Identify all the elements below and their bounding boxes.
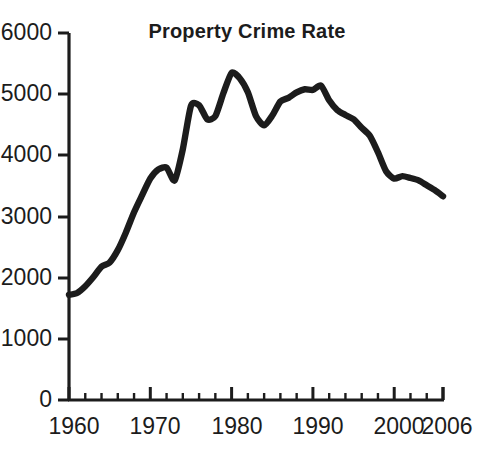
- y-tick-label-2000: 2000: [1, 264, 52, 290]
- x-tick-label-2006: 2006: [421, 413, 472, 439]
- x-tick-label-1980: 1980: [211, 413, 262, 439]
- y-tick-label-3000: 3000: [1, 203, 52, 229]
- y-tick-label-0: 0: [39, 386, 52, 412]
- y-axis-labels: 6000 5000 4000 3000 2000 1000 0: [1, 19, 52, 412]
- y-tick-label-6000: 6000: [1, 19, 52, 45]
- x-tick-label-2000: 2000: [373, 413, 424, 439]
- x-tick-marks: [69, 387, 443, 400]
- x-tick-label-1970: 1970: [129, 413, 180, 439]
- y-tick-label-1000: 1000: [1, 325, 52, 351]
- chart-title: Property Crime Rate: [148, 20, 345, 42]
- x-axis-labels: 1960 1970 1980 1990 2000 2006: [48, 413, 472, 439]
- chart-canvas: Property Crime Rate 6000 5000 4000 3000 …: [0, 0, 477, 458]
- x-tick-label-1960: 1960: [48, 413, 99, 439]
- y-tick-label-4000: 4000: [1, 141, 52, 167]
- property-crime-rate-line: [69, 72, 443, 294]
- x-tick-label-1990: 1990: [292, 413, 343, 439]
- y-tick-label-5000: 5000: [1, 80, 52, 106]
- y-tick-marks: [58, 33, 69, 400]
- property-crime-rate-chart: Property Crime Rate 6000 5000 4000 3000 …: [0, 0, 477, 458]
